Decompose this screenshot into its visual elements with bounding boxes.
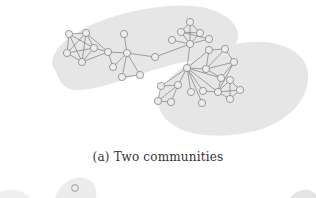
community-region-partial — [0, 190, 30, 198]
figure-caption: (a) Two communities — [0, 150, 316, 164]
graph-node — [78, 58, 85, 65]
community-regions — [52, 5, 308, 135]
graph-node — [72, 185, 79, 192]
graph-node — [214, 88, 221, 95]
graph-node — [167, 98, 174, 105]
graph-node — [154, 97, 161, 104]
graph-node — [157, 82, 164, 89]
graph-node — [198, 99, 205, 106]
graph-node — [187, 88, 194, 95]
graph-node — [205, 35, 212, 42]
graph-node — [183, 64, 190, 71]
graph-node — [136, 71, 143, 78]
graph-node — [123, 49, 130, 56]
next-subfigure-partial — [0, 178, 316, 198]
graph-node — [226, 76, 233, 83]
graph-node — [196, 29, 203, 36]
graph-node — [65, 30, 72, 37]
graph-node — [168, 36, 175, 43]
graph-node — [118, 73, 125, 80]
graph-node — [177, 28, 184, 35]
graph-node — [186, 18, 193, 25]
graph-node — [120, 30, 127, 37]
graph-node — [199, 87, 206, 94]
community-region-partial — [290, 190, 316, 198]
graph-node — [151, 53, 158, 60]
graph-node — [236, 86, 243, 93]
graph-node — [202, 65, 209, 72]
graph-node — [230, 58, 237, 65]
graph-node — [186, 40, 193, 47]
graph-node — [90, 44, 97, 51]
graph-node — [174, 81, 181, 88]
graph-node — [82, 29, 89, 36]
graph-node — [104, 48, 111, 55]
graph-node — [221, 45, 228, 52]
community-graph-figure — [0, 0, 316, 198]
graph-node — [226, 95, 233, 102]
graph-node — [63, 49, 70, 56]
graph-node — [109, 63, 116, 70]
graph-node — [217, 74, 224, 81]
graph-node — [205, 46, 212, 53]
